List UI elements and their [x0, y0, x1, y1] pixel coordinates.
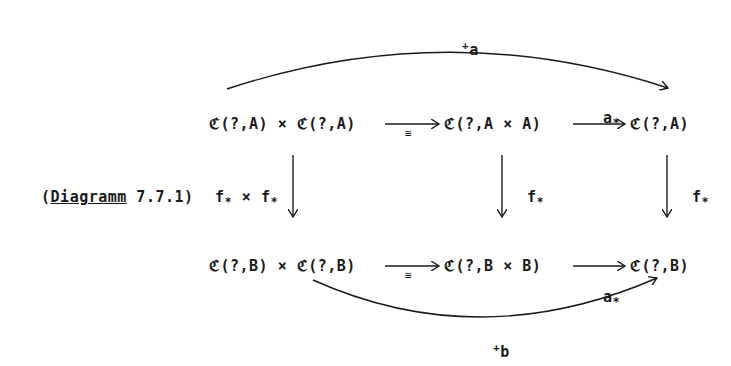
bottom-a: a [603, 288, 613, 306]
right-f-star: * [702, 195, 710, 209]
bottom-left-object: ℭ(?,B) × ℭ(?,B) [209, 259, 356, 274]
bottom-arc-b: b [500, 343, 510, 361]
left-f2-star: * [270, 195, 278, 209]
caption-word: Diagramm [51, 188, 127, 206]
middle-f-star: * [537, 195, 545, 209]
bottom-right-object: ℭ(?,B) [630, 259, 689, 274]
middle-vertical-label: f* [508, 175, 544, 205]
bottom-a-star: * [613, 295, 621, 309]
left-f1-star: * [225, 195, 233, 209]
top-a-star-label: a* [584, 96, 620, 126]
top-right-object: ℭ(?,A) [630, 117, 689, 132]
bottom-middle-object: ℭ(?,B × B) [444, 259, 541, 274]
bottom-arc-plus: + [493, 341, 500, 354]
bottom-iso-label: ≅ [405, 270, 412, 281]
left-f1: f [215, 188, 225, 206]
top-arc-plus: + [462, 39, 469, 52]
top-a: a [603, 109, 613, 127]
right-f: f [692, 188, 702, 206]
bottom-a-star-label: a* [584, 275, 620, 305]
caption-number: 7.7.1) [127, 188, 194, 206]
top-arc-a: a [469, 41, 479, 59]
top-iso-label: ≅ [405, 128, 412, 139]
diagram-caption: (Diagramm 7.7.1) [22, 175, 194, 205]
top-left-object: ℭ(?,A) × ℭ(?,A) [209, 117, 356, 132]
top-middle-object: ℭ(?,A × A) [444, 117, 541, 132]
top-a-star: * [613, 116, 621, 130]
middle-f: f [527, 188, 537, 206]
caption-paren: ( [41, 188, 51, 206]
bottom-arc-label: +b [474, 330, 510, 360]
left-vertical-label: f* × f* [196, 175, 278, 205]
top-arc-label: +a [443, 28, 479, 58]
right-vertical-label: f* [673, 175, 709, 205]
left-times: × [232, 188, 261, 206]
